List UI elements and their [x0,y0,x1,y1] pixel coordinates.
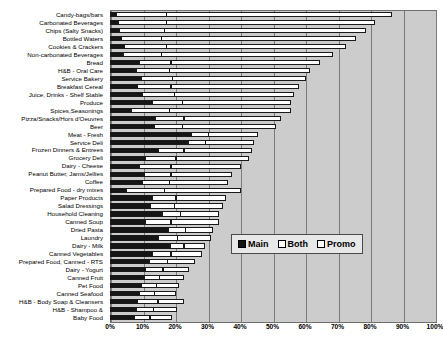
bar-segment-promo [171,219,220,224]
bar-segment-promo [166,44,346,49]
bar-segment-main [110,84,138,89]
bar-segment-both [119,28,165,33]
stacked-bar [111,251,204,256]
bar-row [111,43,436,51]
y-axis-label: Spices,Seasonings [0,107,106,115]
stacked-bar [111,108,293,113]
legend-item-both[interactable]: Both [278,239,309,249]
y-axis-label: Dairy - Yogurt [0,266,106,274]
y-axis-label: Canned Soup [0,218,106,226]
bar-segment-both [142,92,175,97]
stacked-bar [111,259,197,264]
bar-segment-both [139,60,172,65]
bar-row [111,99,436,107]
y-axis-label: Paper Products [0,194,106,202]
stacked-bar [111,275,186,280]
y-axis-label: Pet Food [0,282,106,290]
y-axis-label: Pizza/Snacks/Hors d'Oeuvres [0,115,106,123]
bar-row [111,35,436,43]
bar-segment-main [110,172,144,177]
bar-segment-both [158,235,178,240]
bar-segment-both [141,283,157,288]
x-tick-label: 90% [396,323,409,330]
x-tick-label: 40% [233,323,246,330]
bar-row [111,115,436,123]
bar-segment-promo [208,132,258,137]
bar-segment-promo [159,275,183,280]
x-tick-label: 0% [105,323,115,330]
y-axis-label: Cookies & Crackers [0,43,106,51]
bar-row [111,186,436,194]
bar-segment-promo [176,195,226,200]
bar-segment-main [110,164,139,169]
bar-segment-promo [166,20,376,25]
stacked-bar [111,44,348,49]
bar-segment-both [136,307,154,312]
y-axis-label: Chips (Salty Snacks) [0,27,106,35]
bar-segment-both [123,52,162,57]
bar-segment-main [110,76,141,81]
y-axis-label: Laundry [0,234,106,242]
stacked-bar [111,36,358,41]
bar-segment-promo [158,299,184,304]
stacked-bar [111,60,322,65]
bar-segment-promo [161,52,333,57]
stacked-bar [111,203,225,208]
bar-row [111,202,436,210]
bar-segment-main [110,44,125,49]
y-axis-label: Service Deli [0,139,106,147]
stacked-bar [111,211,222,216]
bar-row [111,11,436,19]
bar-segment-both [145,219,171,224]
bar-segment-both [152,100,183,105]
bar-row [111,51,436,59]
y-axis-label: Coffee [0,178,106,186]
y-axis-label: Prepared Food - dry mixes [0,186,106,194]
stacked-bar [111,235,213,240]
bar-row [111,282,436,290]
bar-segment-promo [174,92,294,97]
bar-segment-both [158,148,184,153]
bar-segment-main [110,235,159,240]
bar-segment-both [150,203,174,208]
bar-segment-both [191,132,209,137]
bar-segment-promo [150,315,173,320]
y-axis-label: Canned Seafood [0,290,106,298]
y-axis-label: Produce [0,99,106,107]
legend-item-main[interactable]: Main [238,239,269,249]
y-axis-label: Salad Dressings [0,202,106,210]
bar-segment-promo [153,307,177,312]
bar-segment-both [136,68,170,73]
bar-segment-promo [166,12,392,17]
stacked-bar [111,180,230,185]
bar-segment-main [110,299,138,304]
bar-row [111,178,436,186]
stacked-bar [111,195,228,200]
stacked-bar [111,148,254,153]
bar-segment-both [144,172,172,177]
bar-segment-main [110,188,126,193]
y-axis-label: Dairy - Milk [0,242,106,250]
bar-segment-main [110,315,134,320]
bar-segment-both [162,211,182,216]
bar-row [111,67,436,75]
bar-segment-both [154,124,183,129]
bar-segment-promo [205,140,254,145]
stacked-bar [111,172,235,177]
bar-segment-main [110,195,152,200]
legend-label: Both [288,239,309,249]
bar-segment-both [137,299,158,304]
bar-segment-main [110,100,152,105]
bar-segment-both [131,108,170,113]
legend-item-promo[interactable]: Promo [317,239,356,249]
bar-segment-main [110,211,162,216]
stacked-bar [111,219,222,224]
y-axis-label: Service Bakery [0,75,106,83]
bar-row [111,59,436,67]
bar-row [111,306,436,314]
y-axis-label: Peanut Butter, Jams/Jellies [0,170,106,178]
bar-row [111,91,436,99]
bar-row [111,194,436,202]
bar-segment-promo [176,156,249,161]
bar-segment-both [155,116,184,121]
